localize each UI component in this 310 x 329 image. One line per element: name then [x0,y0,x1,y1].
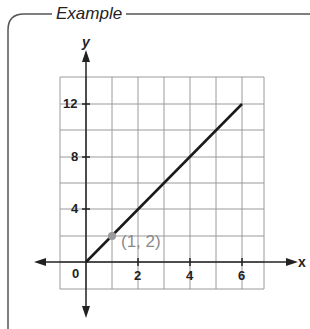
x-axis-arrow-left [34,258,46,266]
x-axis-arrow-right [286,258,298,266]
x-tick-6: 6 [238,268,245,283]
y-axis-label: y [82,34,90,50]
example-title: Example [52,4,126,24]
origin-label: 0 [72,266,79,281]
y-tick-8: 8 [71,149,78,164]
y-axis-arrow-down [82,306,90,318]
point-label: (1, 2) [121,232,161,252]
point-1-2 [108,232,116,240]
example-frame [0,0,310,329]
x-tick-4: 4 [186,268,193,283]
x-axis-label: x [298,254,306,270]
x-tick-2: 2 [134,268,141,283]
y-tick-12: 12 [63,96,77,111]
y-tick-4: 4 [71,201,78,216]
y-axis-arrow-up [82,50,90,62]
